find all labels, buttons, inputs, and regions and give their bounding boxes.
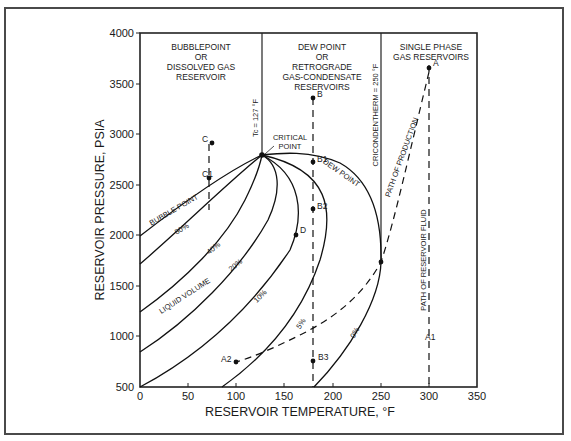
tc-label: Tc = 127 °F: [251, 98, 260, 137]
data-points: [207, 66, 432, 365]
pct40-label: 40%: [205, 240, 223, 257]
critical-point-arrow: [265, 146, 274, 154]
point-label-c1: C1: [202, 169, 213, 179]
point-label-d: D: [300, 225, 306, 235]
bubble-point-label: BUBBLE POINT: [148, 192, 200, 227]
path-fluid-label: PATH OF RESERVOIR FLUID: [419, 209, 428, 311]
y-tick-label: 500: [116, 381, 134, 393]
point-a2: [234, 360, 239, 365]
y-axis-title: RESERVOIR PRESSURE, PSIA: [93, 119, 107, 301]
critical-point: [259, 152, 265, 158]
point-a: [427, 66, 432, 71]
region-dewpoint-label: DEW POINT OR RETROGRADE GAS-CONDENSATE R…: [282, 42, 362, 92]
svg-text:GAS-CONDENSATE: GAS-CONDENSATE: [282, 72, 362, 82]
point-c: [210, 141, 215, 146]
phase-diagram: 500 1000 1500 2000 2500 3000 3500 4000 0…: [0, 0, 571, 441]
y-tick-label: 3500: [110, 78, 134, 90]
svg-text:BUBBLEPOINT: BUBBLEPOINT: [171, 42, 231, 52]
liquid-volume-label: LIQUID VOLUME: [158, 276, 212, 316]
y-tick-label: 1000: [110, 330, 134, 342]
point-b2: [311, 207, 316, 212]
dew-point-label: DEW POINT: [321, 157, 361, 189]
y-tick-label: 4000: [110, 27, 134, 39]
curve-10pct: [140, 155, 298, 387]
point-label-a1: A1: [425, 332, 436, 342]
critical-point-label: POINT: [279, 142, 302, 151]
x-tick-label: 50: [182, 390, 194, 402]
point-label-a2: A2: [221, 354, 232, 364]
svg-text:DEW POINT: DEW POINT: [298, 42, 346, 52]
x-tick-label: 100: [227, 390, 245, 402]
point-cricondentherm-crossing: [379, 260, 384, 265]
point-b3: [311, 359, 316, 364]
x-tick-label: 350: [468, 390, 486, 402]
x-axis-title: RESERVOIR TEMPERATURE, °F: [205, 405, 395, 419]
svg-text:OR: OR: [316, 52, 329, 62]
svg-text:OR: OR: [195, 52, 208, 62]
point-label-c: C: [202, 134, 208, 144]
critical-point-label: CRITICAL: [273, 133, 307, 142]
svg-text:RESERVOIR: RESERVOIR: [176, 72, 226, 82]
quality-curves: [140, 153, 381, 387]
x-tick-label: 300: [420, 390, 438, 402]
point-d: [294, 233, 299, 238]
x-tick-label: 200: [324, 390, 342, 402]
svg-text:SINGLE PHASE: SINGLE PHASE: [400, 42, 463, 52]
x-tick-label: 0: [137, 390, 143, 402]
cricondentherm-label: CRICONDENTHERM = 250 °F: [371, 63, 380, 166]
point-label-b2: B2: [317, 201, 328, 211]
pct5-label: 5%: [294, 316, 308, 330]
y-tick-label: 2500: [110, 179, 134, 191]
x-tick-label: 150: [275, 390, 293, 402]
curve-80pct: [140, 155, 262, 264]
point-label-b: B: [317, 89, 323, 99]
point-label-b3: B3: [318, 352, 329, 362]
y-tick-label: 1500: [110, 280, 134, 292]
y-tick-label: 2000: [110, 229, 134, 241]
svg-text:DISSOLVED GAS: DISSOLVED GAS: [167, 62, 236, 72]
point-b1: [311, 160, 316, 165]
svg-text:RETROGRADE: RETROGRADE: [292, 62, 352, 72]
pct10-label: 10%: [252, 288, 269, 305]
point-label-a: A: [433, 58, 439, 68]
y-tick-label: 3000: [110, 128, 134, 140]
path-production-label: PATH OF PRODUCTION: [383, 116, 420, 198]
region-single-phase-label: SINGLE PHASE GAS RESERVOIRS: [393, 42, 469, 62]
svg-text:GAS RESERVOIRS: GAS RESERVOIRS: [393, 52, 469, 62]
path-lines: [209, 65, 429, 387]
region-bubblepoint-label: BUBBLEPOINT OR DISSOLVED GAS RESERVOIR: [167, 42, 236, 82]
x-tick-label: 250: [372, 390, 390, 402]
path-production-line: [236, 72, 429, 362]
point-b: [311, 96, 316, 101]
pct80-label: 80%: [173, 221, 191, 236]
